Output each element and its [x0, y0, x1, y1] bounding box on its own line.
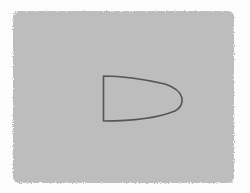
drawing-canvas — [0, 0, 250, 193]
panel-texture — [14, 12, 233, 182]
